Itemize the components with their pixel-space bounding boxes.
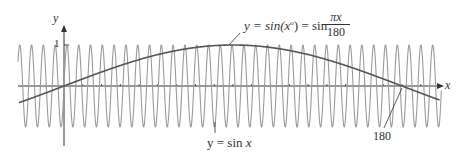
sin-degree-lhs: y = sin(x [244, 18, 290, 33]
x-axis-label: x [445, 78, 450, 93]
sin-degree-label: y = sin(xo) = sin [244, 18, 327, 34]
fraction-denominator: 180 [322, 25, 350, 39]
x-tick-label-180: 180 [373, 129, 391, 144]
sin-x-var: x [246, 135, 252, 150]
sin-x-label: y = sin x [207, 135, 252, 151]
fraction-numerator: πx [322, 10, 350, 25]
y-tick-label-1: 1 [54, 37, 60, 49]
sin-x-prefix: y = sin [207, 135, 246, 150]
y-axis-label: y [53, 11, 58, 26]
fraction: πx 180 [322, 10, 350, 39]
